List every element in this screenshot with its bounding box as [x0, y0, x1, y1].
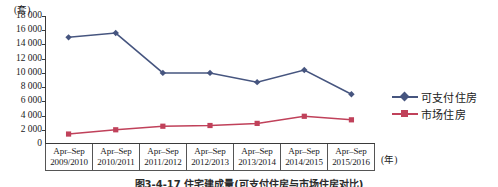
x-category-season: Apr–Sep [241, 146, 272, 158]
legend-label: 可支付住房 [418, 89, 477, 105]
x-category-season: Apr–Sep [100, 146, 131, 158]
data-point-marker [301, 67, 307, 73]
x-category-season: Apr–Sep [147, 146, 178, 158]
data-point-marker [302, 114, 307, 119]
x-category-year: 2013/2014 [238, 157, 276, 169]
data-point-marker [348, 91, 354, 97]
x-category-season: Apr–Sep [288, 146, 319, 158]
plot-area [45, 16, 375, 144]
y-tick-label: 4 000 [21, 111, 42, 121]
x-category-year: 2009/2010 [50, 157, 88, 169]
legend-diamond-icon [392, 90, 418, 104]
data-point-marker [113, 127, 118, 132]
x-axis-unit-label: (年) [381, 152, 397, 166]
legend-label: 市场住房 [418, 106, 466, 122]
y-tick-label: 14 000 [16, 40, 42, 50]
x-axis-category-cell: Apr–Sep2013/2014 [234, 144, 281, 170]
data-point-marker [255, 121, 260, 126]
y-tick-label: 10 000 [16, 68, 42, 78]
data-point-marker [207, 123, 212, 128]
y-tick-label: 0 [37, 139, 42, 149]
series-line [69, 33, 352, 94]
legend-item: 可支付住房 [392, 88, 496, 105]
x-axis-category-cell: Apr–Sep2012/2013 [187, 144, 234, 170]
x-category-year: 2012/2013 [191, 157, 229, 169]
y-tick-label: 6 000 [21, 97, 42, 107]
data-point-marker [254, 79, 260, 85]
x-axis-category-cell: Apr–Sep2009/2010 [46, 144, 93, 170]
legend-item: 市场住房 [392, 105, 496, 122]
data-point-marker [207, 70, 213, 76]
x-category-year: 2014/2015 [285, 157, 323, 169]
x-category-year: 2011/2012 [144, 157, 181, 169]
y-tick-label: 8 000 [21, 82, 42, 92]
figure-container: (套) 18 00016 00014 00012 00010 0008 0006… [0, 0, 498, 187]
x-category-year: 2015/2016 [332, 157, 370, 169]
data-point-marker [65, 34, 71, 40]
x-category-season: Apr–Sep [335, 146, 366, 158]
x-axis-category-cell: Apr–Sep2010/2011 [93, 144, 140, 170]
y-axis-tick-labels: 18 00016 00014 00012 00010 0008 0006 000… [2, 12, 42, 148]
legend-square-icon [392, 107, 418, 121]
y-tick-label: 12 000 [16, 54, 42, 64]
y-tick-label: 18 000 [16, 11, 42, 21]
y-tick-label: 16 000 [16, 25, 42, 35]
x-category-year: 2010/2011 [97, 157, 134, 169]
x-axis-category-cell: Apr–Sep2015/2016 [328, 144, 374, 170]
x-axis-category-table: Apr–Sep2009/2010Apr–Sep2010/2011Apr–Sep2… [45, 144, 375, 171]
y-tick-label: 2 000 [21, 125, 42, 135]
figure-caption: 图3-4-17 住宅建成量(可支付住房与市场住房对比) [0, 176, 498, 187]
data-point-marker [160, 124, 165, 129]
x-category-season: Apr–Sep [53, 146, 84, 158]
series-plot [45, 16, 375, 144]
data-point-marker [349, 117, 354, 122]
x-axis-category-cell: Apr–Sep2014/2015 [281, 144, 328, 170]
x-axis-category-cell: Apr–Sep2011/2012 [140, 144, 187, 170]
chart-legend: 可支付住房市场住房 [392, 88, 496, 122]
x-category-season: Apr–Sep [194, 146, 225, 158]
data-point-marker [66, 131, 71, 136]
